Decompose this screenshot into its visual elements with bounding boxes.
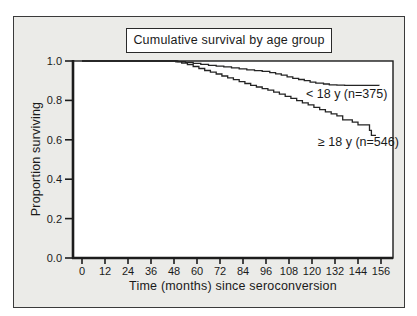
y-tick-label: 0.4 bbox=[47, 173, 62, 185]
x-tick-label: 36 bbox=[145, 265, 157, 277]
x-tick-label: 84 bbox=[237, 265, 249, 277]
x-tick-label: 12 bbox=[99, 265, 111, 277]
x-tick-label: 48 bbox=[168, 265, 180, 277]
y-tick-label: 0.8 bbox=[47, 94, 62, 106]
x-tick-label: 96 bbox=[260, 265, 272, 277]
y-tick-label: 1.0 bbox=[47, 55, 62, 67]
x-tick-label: 156 bbox=[372, 265, 390, 277]
x-tick-label: 108 bbox=[280, 265, 298, 277]
x-tick-label: 0 bbox=[79, 265, 85, 277]
y-axis-label: Proportion surviving bbox=[29, 89, 45, 229]
chart-title: Cumulative survival by age group bbox=[126, 28, 332, 53]
x-tick-label: 60 bbox=[191, 265, 203, 277]
x-axis-label: Time (months) since seroconversion bbox=[103, 279, 363, 295]
y-tick-label: 0.0 bbox=[47, 252, 62, 264]
y-tick-label: 0.2 bbox=[47, 213, 62, 225]
x-tick-label: 72 bbox=[214, 265, 226, 277]
curve-label-18-and-over: ≥ 18 y (n=546) bbox=[318, 135, 399, 149]
x-tick-label: 132 bbox=[326, 265, 344, 277]
x-tick-label: 144 bbox=[349, 265, 367, 277]
x-tick-label: 120 bbox=[303, 265, 321, 277]
y-tick-label: 0.6 bbox=[47, 134, 62, 146]
x-tick-label: 24 bbox=[122, 265, 134, 277]
curve-label-under-18: < 18 y (n=375) bbox=[306, 87, 387, 101]
